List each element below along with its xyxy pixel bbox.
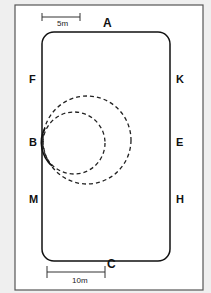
arena-diagram: 5m 10m A C F K B E M H [0, 0, 211, 293]
marker-h: H [176, 193, 184, 205]
marker-c: C [107, 257, 116, 271]
scale-label-5m: 5m [57, 19, 68, 28]
arena-outline [42, 32, 170, 261]
marker-e: E [176, 136, 183, 148]
scale-label-10m: 10m [72, 276, 88, 285]
marker-m: M [29, 193, 38, 205]
marker-b: B [29, 136, 37, 148]
marker-a: A [103, 16, 112, 30]
marker-f: F [29, 73, 36, 85]
marker-k: K [176, 73, 184, 85]
